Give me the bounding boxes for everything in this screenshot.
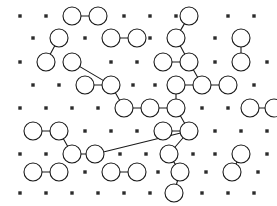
node-circle [180, 7, 198, 25]
node-square [226, 106, 229, 109]
node-circle [89, 7, 107, 25]
node-circle [128, 163, 146, 181]
node-square [265, 60, 268, 63]
node-square [191, 152, 194, 155]
node-square [156, 170, 159, 173]
node-square [18, 152, 21, 155]
node-square [18, 14, 21, 17]
node-circle [223, 163, 241, 181]
node-square [135, 60, 138, 63]
node-square [57, 83, 60, 86]
node-circle [102, 29, 120, 47]
node-circle [50, 122, 68, 140]
node-circle [154, 53, 172, 71]
node-square [96, 106, 99, 109]
node-circle [50, 163, 68, 181]
node-circle [165, 184, 183, 202]
node-circle [193, 76, 211, 94]
node-square [144, 152, 147, 155]
node-square [83, 170, 86, 173]
node-square [252, 83, 255, 86]
node-square [148, 36, 151, 39]
node-square [18, 191, 21, 194]
node-circle [128, 29, 146, 47]
node-square [265, 152, 268, 155]
node-circle [24, 163, 42, 181]
node-square [213, 152, 216, 155]
node-square [135, 129, 138, 132]
lattice-network-svg [0, 0, 277, 206]
node-circle [180, 53, 198, 71]
node-circle [86, 145, 104, 163]
node-square [70, 191, 73, 194]
node-square [31, 36, 34, 39]
node-circle [63, 7, 81, 25]
node-square [204, 170, 207, 173]
node-square [122, 14, 125, 17]
node-square [153, 83, 156, 86]
node-square [31, 83, 34, 86]
node-square [213, 36, 216, 39]
node-square [131, 83, 134, 86]
node-square [118, 152, 121, 155]
node-circle [102, 163, 120, 181]
node-square [200, 191, 203, 194]
node-circle [241, 99, 259, 117]
node-circle [232, 29, 250, 47]
node-circle [160, 145, 178, 163]
node-square [109, 129, 112, 132]
node-circle [154, 122, 172, 140]
node-circle [232, 145, 250, 163]
node-circle [115, 99, 133, 117]
node-circle [37, 53, 55, 71]
node-square [18, 60, 21, 63]
node-circle [63, 53, 81, 71]
node-square [213, 60, 216, 63]
node-square [122, 191, 125, 194]
node-square [44, 191, 47, 194]
node-square [148, 14, 151, 17]
node-square [256, 170, 259, 173]
node-circle [171, 163, 189, 181]
network-graphic-canvas [0, 0, 277, 206]
node-square [109, 60, 112, 63]
node-circle [102, 76, 120, 94]
node-square [83, 129, 86, 132]
node-square [174, 14, 177, 17]
node-circle [219, 76, 237, 94]
node-circle [180, 122, 198, 140]
node-square [265, 129, 268, 132]
node-square [83, 36, 86, 39]
node-square [44, 152, 47, 155]
node-circle [167, 99, 185, 117]
node-square [148, 191, 151, 194]
node-square [18, 106, 21, 109]
node-circle [76, 76, 94, 94]
node-square [44, 14, 47, 17]
node-square [44, 106, 47, 109]
node-circle [63, 145, 81, 163]
node-circle [141, 99, 159, 117]
node-square [252, 14, 255, 17]
node-square [252, 191, 255, 194]
node-square [226, 14, 229, 17]
node-square [213, 129, 216, 132]
node-square [70, 106, 73, 109]
node-circle [232, 53, 250, 71]
node-circle [167, 76, 185, 94]
node-square [96, 191, 99, 194]
node-square [200, 106, 203, 109]
node-circle [50, 29, 68, 47]
node-circle [167, 29, 185, 47]
node-square [239, 129, 242, 132]
node-circle [24, 122, 42, 140]
node-square [226, 191, 229, 194]
